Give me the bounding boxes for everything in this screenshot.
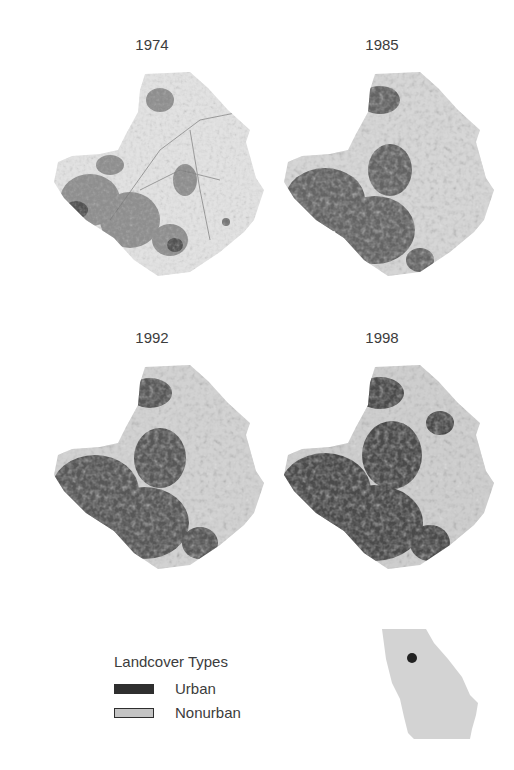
panel-title-1974: 1974 — [112, 36, 192, 53]
legend-item-nonurban: Nonurban — [114, 704, 241, 721]
legend-label-urban: Urban — [175, 680, 216, 697]
map-1992 — [50, 363, 270, 573]
map-1985 — [280, 70, 500, 280]
study-area-marker — [407, 653, 417, 663]
legend-title: Landcover Types — [114, 653, 228, 670]
panel-title-1992: 1992 — [112, 329, 192, 346]
panel-title-1998: 1998 — [342, 329, 422, 346]
legend-item-urban: Urban — [114, 680, 216, 697]
map-1974 — [50, 70, 270, 280]
nonurban-swatch — [114, 708, 154, 718]
georgia-inset-map — [378, 625, 488, 755]
legend-label-nonurban: Nonurban — [175, 704, 241, 721]
map-1998 — [280, 363, 500, 573]
panel-title-1985: 1985 — [342, 36, 422, 53]
urban-swatch — [114, 684, 154, 694]
